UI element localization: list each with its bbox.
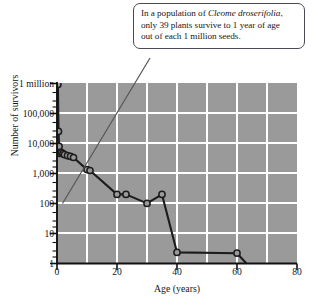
data-point bbox=[144, 200, 150, 206]
data-point bbox=[57, 128, 62, 134]
x-axis-tick-labels: 0 20 40 60 80 bbox=[57, 266, 297, 282]
plot-area bbox=[57, 83, 297, 263]
y-tick-label-10: 10 bbox=[0, 229, 54, 239]
x-tick-label-40: 40 bbox=[172, 266, 182, 277]
data-point bbox=[234, 250, 240, 256]
data-point bbox=[87, 167, 93, 173]
y-axis-title: Number of survivors bbox=[9, 46, 20, 186]
x-tick-label-0: 0 bbox=[55, 266, 60, 277]
plot-canvas bbox=[57, 83, 297, 263]
annotation-line-1: In a population of Cleome droserifolia, bbox=[141, 8, 298, 20]
x-tick-label-80: 80 bbox=[292, 266, 302, 277]
x-tick-label-20: 20 bbox=[112, 266, 122, 277]
data-point bbox=[57, 83, 61, 88]
y-tick-label-1: 1 bbox=[0, 259, 54, 269]
annotation-line-2: only 39 plants survive to 1 year of age bbox=[141, 20, 298, 32]
annotation-text-post: , bbox=[280, 8, 282, 18]
species-name: Cleome droserifolia bbox=[208, 8, 280, 18]
data-point-markers bbox=[57, 83, 240, 256]
data-point bbox=[159, 191, 165, 197]
data-point bbox=[70, 154, 76, 160]
annotation-text-pre: In a population of bbox=[141, 8, 208, 18]
annotation-line-3: out of each 1 million seeds. bbox=[141, 31, 298, 43]
annotation-callout: In a population of Cleome droserifolia, … bbox=[133, 3, 305, 49]
survivorship-chart-figure: In a population of Cleome droserifolia, … bbox=[0, 0, 315, 303]
data-point bbox=[57, 143, 62, 149]
x-axis-title: Age (years) bbox=[57, 283, 297, 294]
y-tick-label-100: 100 bbox=[0, 199, 54, 209]
data-point bbox=[114, 191, 120, 197]
data-point bbox=[174, 249, 180, 255]
x-tick-label-60: 60 bbox=[232, 266, 242, 277]
data-point bbox=[123, 191, 129, 197]
